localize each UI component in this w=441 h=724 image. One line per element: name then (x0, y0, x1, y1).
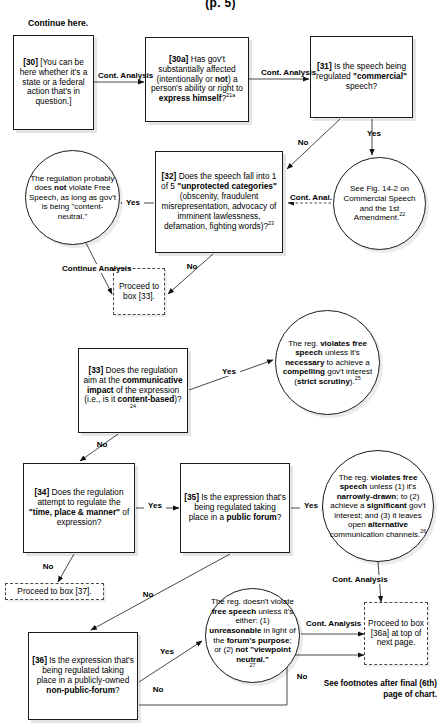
node-box-30a-footnote: 21a (226, 93, 235, 99)
edge-label-35-yes: Yes (300, 501, 322, 510)
node-proceed-to-box-33[interactable]: Proceed to box [33]. (113, 268, 165, 315)
edge-label-33-yes: Yes (218, 367, 240, 376)
node-box-31-text: [31] Is the speech being regulated "comm… (311, 62, 412, 92)
node-box-36-id: [36] (32, 655, 47, 665)
node-circle-non-public-forum-body: The reg. doesn't violate free speech unl… (209, 597, 295, 663)
node-circle-content-neutral[interactable]: The regulation probably does not violate… (25, 150, 120, 245)
node-circle-non-public-forum-text: The reg. doesn't violate free speech unl… (206, 597, 299, 673)
node-box-32[interactable]: [32] Does the speech fall into 1 of 5 "u… (155, 151, 283, 253)
edge-label-30-to-30a: Cont. Analysis (98, 71, 138, 80)
edge-label-32-commercial: Cont. Anal. (290, 193, 328, 202)
node-box-32-footnote: 23 (268, 220, 274, 226)
node-box-34-id: [34] (34, 487, 49, 497)
node-box-36[interactable]: [36] Is the expression that's being regu… (28, 632, 138, 720)
edge-label-continue-analysis: Continue Analysis (62, 264, 112, 273)
node-circle-content-neutral-text: The regulation probably does not violate… (26, 174, 119, 222)
edge-label-32-no: No (184, 262, 200, 271)
node-box-31-id: [31] (317, 61, 332, 71)
node-box-32-body: Does the speech fall into 1 of 5 "unprot… (161, 171, 277, 230)
node-box-30-text: [30] [You can be here whether it's a sta… (14, 58, 93, 107)
node-circle-commercial-speech-footnote: 22 (399, 211, 405, 217)
node-box-34-text: [34] Does the regulation attempt to regu… (24, 488, 134, 527)
node-box-34[interactable]: [34] Does the regulation attempt to regu… (23, 463, 135, 553)
node-circle-commercial-speech-text: See Fig. 14-2 on Commercial Speech and t… (334, 184, 425, 222)
edge-label-34-yes: Yes (144, 501, 166, 510)
node-box-32-text: [32] Does the speech fall into 1 of 5 "u… (156, 172, 282, 231)
node-proceed-to-box-36a[interactable]: Proceed to box [36a] at top of next page… (364, 602, 428, 665)
node-box-31[interactable]: [31] Is the speech being regulated "comm… (310, 36, 413, 118)
page-number-label: (p. 5) (0, 0, 441, 10)
node-box-33-footnote: 24 (130, 404, 136, 410)
edge-label-nonpublic-cont-analysis: Cont. Analysis (306, 619, 344, 628)
edge-label-36-yes: Yes (156, 647, 178, 656)
node-box-32-id: [32] (162, 171, 177, 181)
node-box-30a-text: [30a] Has gov't substantially affected (… (146, 55, 248, 104)
flowchart-page: (p. 5) Continue here. See footnotes afte… (0, 0, 441, 724)
node-box-33-text: [33] Does the regulation aim at the comm… (79, 366, 187, 415)
node-circle-narrowly-drawn-body: The reg. violates free speech unless (1)… (330, 473, 426, 539)
node-box-30-id: [30] (23, 57, 38, 67)
edge-label-30a-to-31: Cont. Analysis (261, 68, 301, 77)
node-proceed-to-box-33-text: Proceed to box [33]. (114, 282, 164, 302)
node-circle-strict-scrutiny[interactable]: The reg. violates free speech unless it'… (275, 310, 380, 415)
node-box-35-text: [35] Is the expression that's being regu… (181, 493, 289, 523)
node-box-30a-id: [30a] (169, 54, 188, 64)
node-proceed-to-box-36a-text: Proceed to box [36a] at top of next page… (365, 619, 427, 649)
node-box-35-id: [35] (184, 492, 199, 502)
node-circle-strict-scrutiny-footnote: 25 (355, 375, 361, 381)
node-circle-non-public-forum-footnote: 27 (250, 662, 256, 668)
node-box-36-body: Is the expression that's being regulated… (37, 655, 134, 695)
node-box-35[interactable]: [35] Is the expression that's being regu… (180, 463, 290, 553)
edge-label-36-no-right: No (294, 672, 310, 681)
edge-label-36-no: No (150, 685, 166, 694)
node-circle-narrowly-drawn[interactable]: The reg. violates free speech unless (1)… (322, 450, 434, 562)
node-box-36-text: [36] Is the expression that's being regu… (29, 656, 137, 695)
node-circle-commercial-speech[interactable]: See Fig. 14-2 on Commercial Speech and t… (333, 157, 426, 250)
edge-label-31-yes: Yes (364, 129, 384, 138)
edge-label-31-no: No (295, 138, 311, 147)
edge-label-34-no: No (40, 562, 56, 571)
node-proceed-to-box-37-text: Proceed to box [37]. (14, 587, 94, 597)
edge-label-33-no: No (94, 440, 110, 449)
node-circle-strict-scrutiny-text: The reg. violates free speech unless it'… (276, 339, 379, 387)
footnote-reference-note: See footnotes after final (6th) page of … (317, 679, 437, 700)
edge-label-circle-cont-analysis: Cont. Analysis (330, 575, 390, 584)
node-proceed-to-box-37[interactable]: Proceed to box [37]. (5, 583, 104, 600)
continue-here-label: Continue here. (28, 18, 88, 28)
node-circle-narrowly-drawn-text: The reg. violates free speech unless (1)… (323, 473, 433, 540)
edge-label-32-yes: Yes (122, 198, 144, 207)
node-box-30[interactable]: [30] [You can be here whether it's a sta… (13, 35, 94, 130)
node-circle-non-public-forum[interactable]: The reg. doesn't violate free speech unl… (205, 588, 300, 683)
node-box-30a[interactable]: [30a] Has gov't substantially affected (… (145, 37, 249, 122)
node-circle-narrowly-drawn-footnote: 26 (420, 528, 426, 534)
node-box-33[interactable]: [33] Does the regulation aim at the comm… (78, 348, 188, 433)
node-box-33-id: [33] (88, 365, 103, 375)
edge-label-35-no: No (140, 590, 156, 599)
node-box-35-body: Is the expression that's being regulated… (189, 492, 286, 522)
